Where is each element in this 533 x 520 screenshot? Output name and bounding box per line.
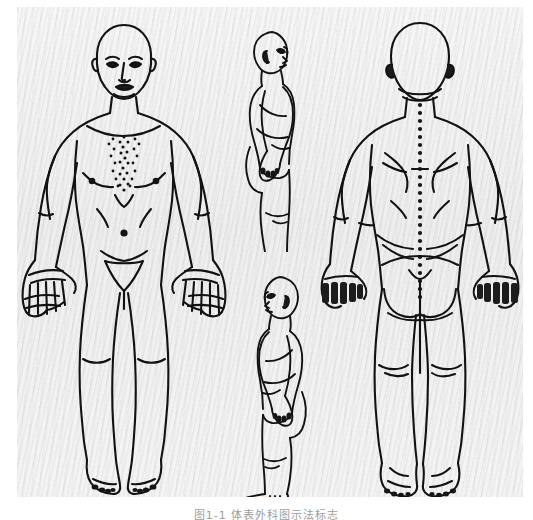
scanned-plate <box>17 7 523 497</box>
figure-caption-text: 图1-1 体表外科图示法标志 <box>0 510 533 520</box>
anterior-body-figure <box>17 13 232 497</box>
page-margin-left <box>0 0 17 520</box>
posterior-body-figure <box>313 13 523 497</box>
page-margin-top <box>0 0 533 7</box>
page-margin-right <box>523 0 533 520</box>
figure-page: 图1-1 体表外科图示法标志 <box>0 0 533 520</box>
figure-caption: 图1-1 体表外科图示法标志 <box>0 509 533 520</box>
